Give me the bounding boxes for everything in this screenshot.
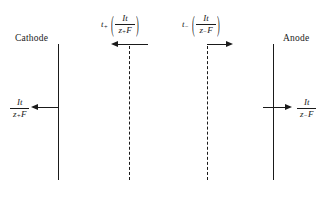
anion-transport-arrow-head: [226, 41, 233, 47]
cathode-flux-formula: It z+F: [10, 97, 29, 120]
anion-boundary-line: [207, 46, 208, 180]
anode-electrode-line: [273, 44, 274, 180]
cation-open-paren: (: [111, 12, 114, 38]
cathode-label: Cathode: [15, 33, 48, 43]
anion-transport-fraction: It z−F: [196, 13, 215, 36]
anode-flux-denominator: z−F: [297, 109, 316, 120]
anion-transport-denominator: z−F: [196, 25, 215, 36]
cation-transport-arrow-shaft: [117, 44, 148, 45]
anode-flux-arrow-shaft: [263, 107, 286, 108]
cathode-flux-denominator: z+F: [10, 109, 29, 120]
anode-flux-numerator: It: [301, 97, 313, 108]
cathode-flux-arrow-head: [31, 104, 38, 110]
cation-close-paren: ): [136, 12, 139, 38]
cathode-flux-arrow-shaft: [36, 107, 58, 108]
diagram-canvas: Cathode It z+F t+ ( It z+F ) t− ( It: [0, 0, 332, 197]
anion-transport-formula: t− ( It z−F ): [182, 13, 222, 36]
anode-flux-z: z: [300, 109, 304, 119]
cathode-flux-faraday: F: [21, 109, 27, 119]
cathode-flux-fraction: It z+F: [10, 97, 29, 120]
anode-flux-fraction: It z−F: [297, 97, 316, 120]
anion-t-sign: −: [185, 23, 189, 30]
cation-boundary-line: [129, 46, 130, 180]
cation-t-sign: +: [104, 23, 108, 30]
anion-transport-arrow-shaft: [207, 44, 227, 45]
anion-transport-numerator: It: [200, 13, 212, 24]
cation-transport-faraday: F: [126, 25, 132, 35]
anion-transport-faraday: F: [207, 25, 213, 35]
anode-flux-formula: It z−F: [297, 97, 316, 120]
anion-close-paren: ): [217, 12, 220, 38]
cathode-flux-z: z: [13, 109, 17, 119]
anion-transport-number: t−: [182, 19, 189, 29]
anode-flux-arrow-head: [285, 104, 292, 110]
anode-label: Anode: [283, 33, 309, 43]
cation-transport-numerator: It: [119, 13, 131, 24]
anode-flux-faraday: F: [308, 109, 314, 119]
cation-transport-denominator: z+F: [115, 25, 134, 36]
cation-transport-formula: t+ ( It z+F ): [101, 13, 141, 36]
cation-transport-fraction: It z+F: [115, 13, 134, 36]
cathode-flux-numerator: It: [14, 97, 26, 108]
anion-open-paren: (: [192, 12, 195, 38]
cation-transport-arrow-head: [111, 41, 118, 47]
cathode-electrode-line: [58, 44, 59, 180]
cation-transport-number: t+: [101, 19, 108, 29]
